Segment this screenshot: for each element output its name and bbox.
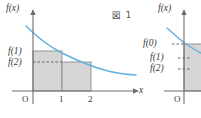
left-origin-label: O <box>22 95 29 104</box>
left-x-tick-1: 1 <box>59 95 64 104</box>
left-x-tick-2: 2 <box>88 95 93 104</box>
right-value-label-f0: f(0) <box>143 39 157 49</box>
y-axis-arrowhead <box>30 9 35 15</box>
left-y-axis-label: f(x) <box>6 4 19 14</box>
right-value-label-f2: f(2) <box>150 64 164 74</box>
rectangle-f1 <box>33 51 62 91</box>
y-axis-arrowhead <box>181 9 186 15</box>
left-x-axis-label: x <box>139 86 143 96</box>
right-origin-label: O <box>174 95 181 104</box>
right-y-axis-label: f(x) <box>158 4 171 14</box>
left-value-label-f1: f(1) <box>8 47 22 57</box>
left-value-label-f2: f(2) <box>8 58 22 68</box>
right-diagram: f(x) f(0) f(1) f(2) O <box>150 0 201 118</box>
rectangle-f2 <box>62 62 91 91</box>
figure-1-caption: 図 1 <box>112 8 132 20</box>
right-value-label-f1: f(1) <box>150 53 164 63</box>
figure-container: f(x) f(1) f(2) O 1 2 x 図 1 <box>0 0 201 118</box>
